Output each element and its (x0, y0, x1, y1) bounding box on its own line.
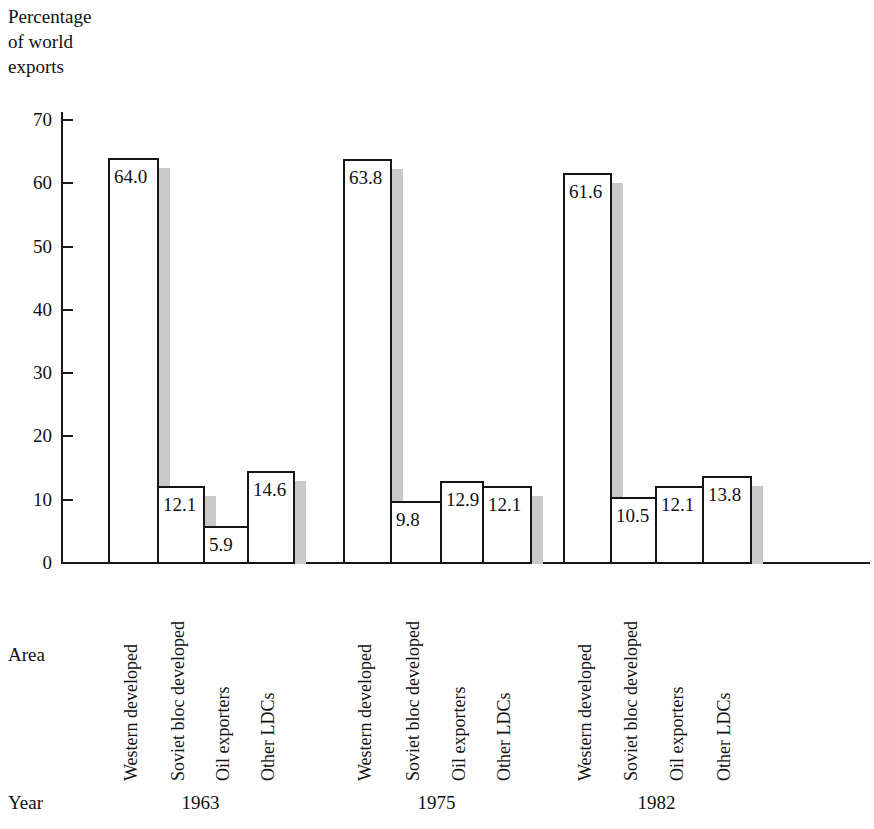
bar[interactable] (343, 159, 392, 564)
bar-value-label: 12.1 (163, 495, 196, 514)
category-label: Oil exporters (214, 687, 232, 781)
category-label: Other LDCs (495, 693, 513, 782)
category-label: Western developed (576, 644, 594, 781)
area-row-label: Area (8, 645, 45, 664)
category-label: Oil exporters (668, 687, 686, 781)
y-tick-label-10: 10 (12, 490, 52, 509)
bar-value-label: 12.9 (446, 490, 479, 509)
bar-value-label: 10.5 (616, 506, 649, 525)
y-tick-label-30: 30 (12, 363, 52, 382)
y-tick-label-60: 60 (12, 173, 52, 192)
bar-value-label: 12.1 (488, 495, 521, 514)
bar-value-label: 13.8 (708, 485, 741, 504)
y-tick-20 (62, 435, 73, 437)
bar-value-label: 5.9 (209, 535, 233, 554)
bar-value-label: 63.8 (349, 168, 382, 187)
y-tick-label-0: 0 (12, 553, 52, 572)
y-tick-60 (62, 182, 73, 184)
category-label: Soviet bloc developed (169, 621, 187, 781)
category-label: Western developed (356, 644, 374, 781)
bar-value-label: 14.6 (253, 480, 286, 499)
y-tick-label-40: 40 (12, 300, 52, 319)
y-tick-label-70: 70 (12, 110, 52, 129)
bar-value-label: 64.0 (114, 167, 147, 186)
bar-value-label: 61.6 (569, 182, 602, 201)
year-label-1975: 1975 (397, 793, 477, 812)
y-tick-70 (62, 119, 73, 121)
y-tick-40 (62, 309, 73, 311)
category-label: Soviet bloc developed (622, 621, 640, 781)
category-label: Western developed (122, 644, 140, 781)
chart-page: Percentage of world exports 010203040506… (0, 0, 874, 829)
year-label-1982: 1982 (617, 793, 697, 812)
category-label: Oil exporters (450, 687, 468, 781)
y-tick-label-20: 20 (12, 426, 52, 445)
bar[interactable] (108, 158, 159, 564)
category-label: Other LDCs (715, 693, 733, 782)
y-tick-label-50: 50 (12, 237, 52, 256)
year-label-1963: 1963 (161, 793, 241, 812)
y-tick-10 (62, 499, 73, 501)
year-row-label: Year (8, 793, 43, 812)
bar-value-label: 9.8 (396, 510, 420, 529)
y-tick-50 (62, 246, 73, 248)
bar[interactable] (563, 173, 612, 564)
y-axis-line (61, 112, 63, 564)
plot-area: 010203040506070 64.012.15.914.663.89.812… (0, 0, 874, 829)
category-label: Other LDCs (259, 693, 277, 782)
bar-value-label: 12.1 (661, 495, 694, 514)
category-label: Soviet bloc developed (404, 621, 422, 781)
y-tick-30 (62, 372, 73, 374)
